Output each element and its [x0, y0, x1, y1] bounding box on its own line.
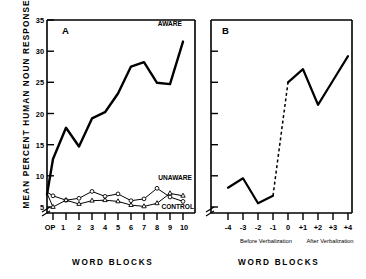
xtick-minus3: -3	[240, 223, 247, 232]
ytick-35: 35	[36, 16, 44, 25]
xtick-10: 10	[180, 223, 188, 232]
xtick-7: 7	[142, 223, 146, 232]
xtick-minus4: -4	[225, 223, 232, 232]
panel-a-xticks	[53, 213, 183, 220]
xtick-1: 1	[61, 223, 65, 232]
panel-b-line-before	[228, 178, 273, 203]
xtick-plus3: +3	[329, 223, 337, 232]
xtick-8: 8	[155, 223, 159, 232]
xtick-9: 9	[168, 223, 172, 232]
panel-a-letter: A	[62, 25, 69, 36]
xtick-plus1: +1	[299, 223, 307, 232]
before-verbalization-label: Before Verbalization	[240, 238, 292, 244]
ytick-30: 30	[36, 47, 44, 56]
x-axis-caption-a: WORD BLOCKS	[72, 258, 153, 267]
after-verbalization-label: After Verbalization	[306, 238, 353, 244]
panel-b-y-axis-break-mark	[206, 207, 214, 216]
xtick-op: OP	[45, 223, 56, 232]
aware-line	[47, 42, 183, 195]
panel-b: -4 -3 -2 -1 0 +1 +2 +3 +4 B Before Verba…	[206, 20, 354, 244]
panel-b-yticks	[211, 51, 218, 207]
panel-a: 35 30 25 20 15 10 5	[36, 16, 195, 232]
xtick-minus2: -2	[255, 223, 262, 232]
panel-a-ytick-labels: 35 30 25 20 15 10 5	[36, 16, 44, 212]
panel-b-xticks	[228, 213, 348, 220]
panel-b-letter: B	[222, 25, 229, 36]
panel-a-xtick-labels: OP 1 2 3 4 5 6 7 8 9 10	[45, 223, 188, 232]
panel-a-frame	[47, 20, 195, 213]
panel-b-line-dashed	[273, 82, 288, 196]
xtick-plus2: +2	[314, 223, 322, 232]
panel-b-line-after	[288, 56, 348, 105]
unaware-label: UNAWARE	[158, 174, 192, 181]
xtick-zero: 0	[286, 223, 290, 232]
aware-label: AWARE	[158, 20, 183, 27]
xtick-plus4: +4	[344, 223, 353, 232]
xtick-minus1: -1	[270, 223, 277, 232]
y-axis-title: MEAN PERCENT HUMAN NOUN RESPONSES	[22, 9, 31, 209]
xtick-5: 5	[116, 223, 120, 232]
figure-svg: 35 30 25 20 15 10 5	[0, 0, 366, 279]
ytick-25: 25	[36, 78, 44, 87]
panel-b-xtick-labels: -4 -3 -2 -1 0 +1 +2 +3 +4	[225, 223, 353, 232]
ytick-5: 5	[40, 203, 44, 212]
control-label: CONTROL	[161, 203, 194, 210]
xtick-2: 2	[77, 223, 81, 232]
xtick-6: 6	[129, 223, 133, 232]
figure-container: MEAN PERCENT HUMAN NOUN RESPONSES 35	[0, 0, 366, 279]
ytick-15: 15	[36, 141, 44, 150]
ytick-10: 10	[36, 172, 44, 181]
xtick-4: 4	[103, 223, 108, 232]
xtick-3: 3	[90, 223, 94, 232]
x-axis-caption-b: WORD BLOCKS	[238, 258, 319, 267]
ytick-20: 20	[36, 110, 44, 119]
